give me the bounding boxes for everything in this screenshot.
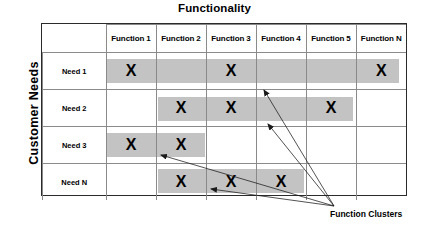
- cell-need-3-function-3: [206, 127, 256, 164]
- cell-need-1-function-n: X: [356, 53, 406, 90]
- cell-need-2-function-5: X: [306, 90, 356, 127]
- cell-need-1-function-2: [156, 53, 206, 90]
- cell-need-3-function-1: X: [106, 127, 156, 164]
- cell-need-3-function-n: [356, 127, 406, 164]
- mark-x-icon: X: [226, 63, 237, 79]
- column-header-function-1: Function 1: [106, 25, 156, 53]
- column-header-function-5: Function 5: [306, 25, 356, 53]
- cell-need-1-function-1: X: [106, 53, 156, 90]
- mark-x-icon: X: [226, 174, 237, 190]
- mark-x-icon: X: [176, 174, 187, 190]
- requirements-matrix: Function 1 Function 2 Function 3 Functio…: [41, 23, 407, 196]
- matrix-header-row: Function 1 Function 2 Function 3 Functio…: [43, 25, 407, 53]
- mark-x-icon: X: [126, 63, 137, 79]
- cell-need-n-function-1: [106, 164, 156, 201]
- column-header-function-4: Function 4: [256, 25, 306, 53]
- cell-need-3-function-5: [306, 127, 356, 164]
- cell-need-2-function-2: X: [156, 90, 206, 127]
- matrix-corner-cell: [43, 25, 107, 53]
- mark-x-icon: X: [176, 100, 187, 116]
- column-header-function-2: Function 2: [156, 25, 206, 53]
- page-title: Functionality: [0, 2, 429, 14]
- table-row: Need 3 X X: [43, 127, 407, 164]
- column-header-function-3: Function 3: [206, 25, 256, 53]
- cell-need-n-function-5: [306, 164, 356, 201]
- cell-need-3-function-4: [256, 127, 306, 164]
- cell-need-1-function-5: [306, 53, 356, 90]
- column-header-function-n: Function N: [356, 25, 406, 53]
- cell-need-2-function-n: [356, 90, 406, 127]
- vertical-axis-label: Customer Needs: [27, 28, 41, 198]
- cell-need-2-function-4: [256, 90, 306, 127]
- cell-need-3-function-2: X: [156, 127, 206, 164]
- table-row: Need 2 X X X: [43, 90, 407, 127]
- cell-need-2-function-3: X: [206, 90, 256, 127]
- matrix-table: Function 1 Function 2 Function 3 Functio…: [42, 24, 406, 200]
- cell-need-1-function-4: [256, 53, 306, 90]
- cell-need-1-function-3: X: [206, 53, 256, 90]
- table-row: Need 1 X X X: [43, 53, 407, 90]
- mark-x-icon: X: [376, 63, 387, 79]
- row-header-need-n: Need N: [43, 164, 107, 201]
- cell-need-2-function-1: [106, 90, 156, 127]
- cell-need-n-function-3: X: [206, 164, 256, 201]
- mark-x-icon: X: [326, 100, 337, 116]
- row-header-need-2: Need 2: [43, 90, 107, 127]
- mark-x-icon: X: [226, 100, 237, 116]
- row-header-need-1: Need 1: [43, 53, 107, 90]
- cell-need-n-function-n: [356, 164, 406, 201]
- row-header-need-3: Need 3: [43, 127, 107, 164]
- cell-need-n-function-2: X: [156, 164, 206, 201]
- mark-x-icon: X: [276, 174, 287, 190]
- mark-x-icon: X: [176, 137, 187, 153]
- annotation-label-function-clusters: Function Clusters: [330, 209, 402, 219]
- mark-x-icon: X: [126, 137, 137, 153]
- cell-need-n-function-4: X: [256, 164, 306, 201]
- table-row: Need N X X X: [43, 164, 407, 201]
